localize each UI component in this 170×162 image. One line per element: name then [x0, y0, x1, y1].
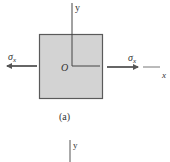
- y-axis-label: y: [75, 2, 80, 13]
- x-axis-label: x: [161, 70, 166, 80]
- panel-b-y-axis-label: y: [73, 140, 78, 150]
- left-stress-subscript: x: [12, 56, 17, 64]
- right-stress-subscript: x: [132, 57, 137, 65]
- right-stress-label: σx: [128, 52, 137, 65]
- left-stress-label: σx: [8, 51, 17, 64]
- panel-a-caption: (a): [59, 111, 70, 123]
- stress-element-diagram: y O x σx σx (a) y: [0, 0, 170, 162]
- origin-label: O: [61, 62, 68, 73]
